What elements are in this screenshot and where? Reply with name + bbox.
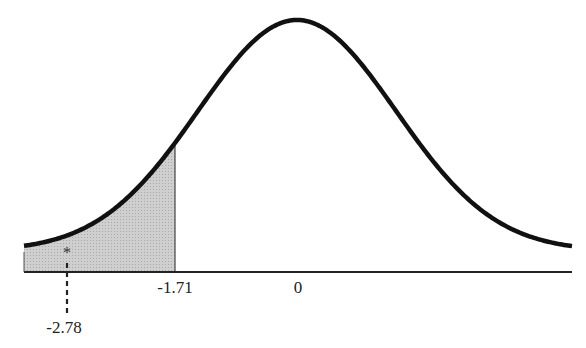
normal-curve-chart: * -1.71 0 -2.78: [0, 0, 586, 348]
statistic-marker: *: [63, 244, 71, 261]
tick-label-critical: -1.71: [157, 278, 192, 297]
bell-curve: [24, 20, 572, 246]
tick-label-statistic: -2.78: [46, 318, 81, 337]
shaded-tail-region: [24, 143, 175, 272]
tick-label-zero: 0: [294, 278, 303, 297]
